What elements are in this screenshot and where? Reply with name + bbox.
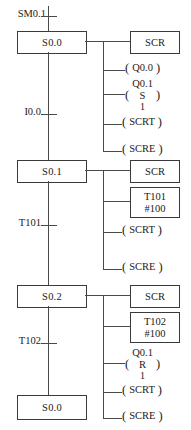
coil-operand: Q0.0 xyxy=(132,62,153,74)
coil-paren-close: ) xyxy=(156,89,160,102)
action-link-3 xyxy=(85,295,104,296)
step-rail-3 xyxy=(48,306,49,395)
coil-scrt-2[interactable]: ( SCRT ) xyxy=(122,224,162,237)
coil-count: 1 xyxy=(140,101,145,112)
action-branch-3-4 xyxy=(103,392,122,393)
step-label: S0.0 xyxy=(42,37,62,48)
instruction-label: SCR xyxy=(145,166,165,178)
action-branch-3-2 xyxy=(103,326,130,327)
coil-scre-3[interactable]: ( SCRE ) xyxy=(122,410,163,423)
transition-label-sm01: SM0.1 xyxy=(6,8,46,19)
action-branch-1-3 xyxy=(103,94,125,95)
timer-name: T102 xyxy=(144,316,166,328)
action-branch-2-1 xyxy=(103,170,130,171)
action-bus-3 xyxy=(103,295,104,418)
action-branch-1-1 xyxy=(103,41,130,42)
coil-paren-close: ) xyxy=(156,62,160,75)
coil-body: Q0.1 S 1 xyxy=(129,78,156,112)
transition-label-i00: I0.0 xyxy=(8,106,41,117)
coil-body: SCRT xyxy=(126,116,158,128)
coil-operation: R xyxy=(139,359,146,371)
coil-q01-set[interactable]: ( Q0.1 S 1 ) xyxy=(125,78,160,112)
coil-scrt-1[interactable]: ( SCRT ) xyxy=(122,116,162,129)
step-rail-2 xyxy=(48,181,49,285)
coil-paren-close: ) xyxy=(156,358,160,371)
coil-body: SCRE xyxy=(126,143,158,155)
coil-operation: S xyxy=(140,90,146,102)
action-branch-2-3 xyxy=(103,232,122,233)
action-branch-3-3 xyxy=(103,363,125,364)
instruction-box-timer-t102[interactable]: T102 #100 xyxy=(130,312,180,343)
coil-body: Q0.1 R 1 xyxy=(129,347,156,381)
action-branch-2-2 xyxy=(103,201,130,202)
step-rail-1 xyxy=(48,52,49,160)
sfc-diagram: SM0.1 S0.0 SCR ( Q0.0 ) ( Q0.1 S 1 ) ( xyxy=(0,0,191,430)
coil-operand: Q0.1 xyxy=(132,78,153,90)
coil-paren-close: ) xyxy=(158,116,162,129)
step-box-s00-1[interactable]: S0.0 xyxy=(17,31,87,54)
coil-paren-close: ) xyxy=(158,143,162,156)
instruction-box-scr-2[interactable]: SCR xyxy=(130,160,180,183)
coil-operand: Q0.1 xyxy=(132,347,153,359)
coil-body: SCRE xyxy=(126,410,158,422)
step-box-s01[interactable]: S0.1 xyxy=(17,160,87,183)
coil-operand: SCRT xyxy=(129,116,155,128)
action-branch-3-5 xyxy=(103,418,122,419)
step-label: S0.2 xyxy=(42,291,62,302)
timer-preset: #100 xyxy=(145,203,166,215)
transition-bar-i00 xyxy=(41,114,57,115)
coil-operand: SCRE xyxy=(129,143,155,155)
coil-operand: SCRT xyxy=(129,224,155,236)
coil-scre-2[interactable]: ( SCRE ) xyxy=(122,261,163,274)
action-bus-2 xyxy=(103,170,104,269)
coil-scrt-3[interactable]: ( SCRT ) xyxy=(122,384,162,397)
timer-preset: #100 xyxy=(145,328,166,340)
coil-body: SCRT xyxy=(126,384,158,396)
coil-operand: SCRE xyxy=(129,261,155,273)
action-branch-2-4 xyxy=(103,269,122,270)
transition-label-t102: T102 xyxy=(4,335,41,346)
instruction-box-scr-1[interactable]: SCR xyxy=(130,31,180,54)
coil-count: 1 xyxy=(140,370,145,381)
coil-paren-close: ) xyxy=(158,261,162,274)
instruction-box-scr-3[interactable]: SCR xyxy=(130,285,180,308)
instruction-label: SCR xyxy=(145,37,165,49)
transition-bar-sm01 xyxy=(41,16,57,17)
step-label: S0.0 xyxy=(42,402,62,413)
transition-label-t101: T101 xyxy=(4,217,41,228)
action-branch-1-5 xyxy=(103,151,122,152)
transition-bar-t101 xyxy=(41,225,57,226)
coil-body: SCRT xyxy=(126,224,158,236)
step-box-s00-return[interactable]: S0.0 xyxy=(17,395,87,420)
action-bus-1 xyxy=(103,41,104,151)
instruction-box-timer-t101[interactable]: T101 #100 xyxy=(130,187,180,218)
coil-body: SCRE xyxy=(126,261,158,273)
coil-paren-close: ) xyxy=(158,384,162,397)
coil-operand: SCRE xyxy=(129,410,155,422)
action-branch-1-4 xyxy=(103,124,122,125)
action-branch-1-2 xyxy=(103,70,125,71)
step-label: S0.1 xyxy=(42,166,62,177)
step-box-s02[interactable]: S0.2 xyxy=(17,285,87,308)
action-branch-3-1 xyxy=(103,295,130,296)
transition-bar-t102 xyxy=(41,343,57,344)
coil-paren-close: ) xyxy=(158,224,162,237)
coil-scre-1[interactable]: ( SCRE ) xyxy=(122,143,163,156)
coil-paren-close: ) xyxy=(158,410,162,423)
action-link-2 xyxy=(85,170,104,171)
timer-name: T101 xyxy=(144,191,166,203)
coil-q01-reset[interactable]: ( Q0.1 R 1 ) xyxy=(125,347,160,381)
coil-body: Q0.0 xyxy=(129,62,156,74)
entry-rail-top xyxy=(48,6,49,32)
coil-q00[interactable]: ( Q0.0 ) xyxy=(125,62,160,75)
coil-operand: SCRT xyxy=(129,384,155,396)
instruction-label: SCR xyxy=(145,291,165,303)
action-link-1 xyxy=(85,41,104,42)
